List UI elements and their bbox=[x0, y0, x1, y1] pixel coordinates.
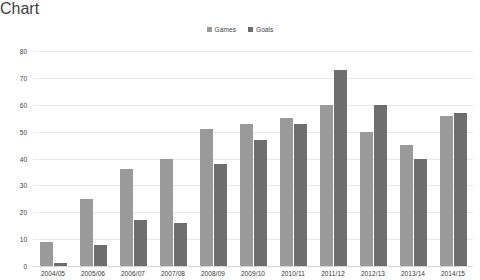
bar-goals-2007-08[interactable] bbox=[174, 223, 187, 266]
bar-goals-2012-13[interactable] bbox=[374, 105, 387, 266]
x-axis-label: 2006/07 bbox=[113, 270, 153, 278]
gridline-0: 0 bbox=[33, 266, 473, 267]
bar-games-2010-11[interactable] bbox=[280, 118, 293, 266]
y-axis-tick-10: 10 bbox=[20, 236, 27, 243]
plot-area: 80706050403020100 bbox=[33, 51, 473, 266]
x-axis-label: 2007/08 bbox=[153, 270, 193, 278]
x-axis-label: 2009/10 bbox=[233, 270, 273, 278]
bar-group bbox=[193, 51, 233, 266]
legend-swatch-games bbox=[207, 27, 212, 32]
bar-group bbox=[313, 51, 353, 266]
x-axis-label: 2008/09 bbox=[193, 270, 233, 278]
bar-goals-2009-10[interactable] bbox=[254, 140, 267, 266]
bar-groups bbox=[33, 51, 473, 266]
legend-label-games: Games bbox=[215, 26, 236, 33]
bar-goals-2010-11[interactable] bbox=[294, 124, 307, 266]
y-axis-tick-70: 70 bbox=[20, 74, 27, 81]
bar-goals-2013-14[interactable] bbox=[414, 159, 427, 267]
bar-games-2014-15[interactable] bbox=[440, 116, 453, 267]
bar-goals-2008-09[interactable] bbox=[214, 164, 227, 266]
bar-games-2007-08[interactable] bbox=[160, 159, 173, 267]
bar-group bbox=[33, 51, 73, 266]
x-axis-label: 2013/14 bbox=[393, 270, 433, 278]
bar-group bbox=[113, 51, 153, 266]
bar-group bbox=[353, 51, 393, 266]
bar-goals-2006-07[interactable] bbox=[134, 220, 147, 266]
bar-goals-2005-06[interactable] bbox=[94, 245, 107, 267]
x-axis-label: 2011/12 bbox=[313, 270, 353, 278]
legend-item-goals[interactable]: Goals bbox=[248, 26, 273, 33]
bar-group bbox=[273, 51, 313, 266]
bar-group bbox=[73, 51, 113, 266]
x-axis-label: 2012/13 bbox=[353, 270, 393, 278]
y-axis-tick-60: 60 bbox=[20, 101, 27, 108]
legend-label-goals: Goals bbox=[256, 26, 273, 33]
bar-games-2011-12[interactable] bbox=[320, 105, 333, 266]
legend-swatch-goals bbox=[248, 27, 253, 32]
bar-games-2012-13[interactable] bbox=[360, 132, 373, 266]
bar-games-2009-10[interactable] bbox=[240, 124, 253, 266]
x-axis-label: 2004/05 bbox=[33, 270, 73, 278]
bar-group bbox=[233, 51, 273, 266]
y-axis-tick-50: 50 bbox=[20, 128, 27, 135]
bar-goals-2004-05[interactable] bbox=[54, 263, 67, 266]
bar-group bbox=[433, 51, 473, 266]
chart-legend: Games Goals bbox=[0, 26, 480, 33]
y-axis-tick-20: 20 bbox=[20, 209, 27, 216]
x-axis-label: 2010/11 bbox=[273, 270, 313, 278]
y-axis-tick-30: 30 bbox=[20, 182, 27, 189]
bar-games-2008-09[interactable] bbox=[200, 129, 213, 266]
y-axis-tick-80: 80 bbox=[20, 48, 27, 55]
bar-games-2006-07[interactable] bbox=[120, 169, 133, 266]
bar-games-2005-06[interactable] bbox=[80, 199, 93, 266]
x-axis-label: 2005/06 bbox=[73, 270, 113, 278]
y-axis-tick-0: 0 bbox=[23, 263, 27, 270]
bar-group bbox=[393, 51, 433, 266]
bar-chart: Games Goals 80706050403020100 2004/05200… bbox=[0, 18, 480, 280]
bar-games-2004-05[interactable] bbox=[40, 242, 53, 266]
bar-goals-2011-12[interactable] bbox=[334, 70, 347, 266]
bar-group bbox=[153, 51, 193, 266]
legend-item-games[interactable]: Games bbox=[207, 26, 236, 33]
y-axis-tick-40: 40 bbox=[20, 155, 27, 162]
x-axis-label: 2014/15 bbox=[433, 270, 473, 278]
bar-games-2013-14[interactable] bbox=[400, 145, 413, 266]
x-axis-labels: 2004/052005/062006/072007/082008/092009/… bbox=[33, 270, 473, 278]
bar-goals-2014-15[interactable] bbox=[454, 113, 467, 266]
